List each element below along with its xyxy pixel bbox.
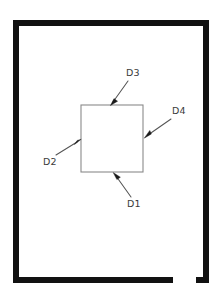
frame-top-edge: [13, 20, 209, 26]
outer-border-frame: [13, 20, 209, 283]
leader-line-d3: [113, 81, 128, 102]
leader-line-d2: [56, 142, 77, 155]
center-square: [81, 105, 143, 172]
dimension-label-d2: D2: [43, 156, 57, 167]
frame-right-edge: [203, 20, 209, 283]
frame-bottom-edge-right-segment: [196, 277, 209, 283]
technical-drawing-canvas: D1 D2 D3 D4: [0, 0, 221, 300]
arrow-head-d4: [144, 130, 151, 138]
arrow-head-d2: [74, 139, 81, 144]
drawing-svg: D1 D2 D3 D4: [0, 0, 221, 300]
leader-line-d4: [148, 119, 171, 135]
frame-left-edge: [13, 20, 19, 283]
leader-line-d1: [116, 176, 131, 197]
dimension-label-d1: D1: [127, 198, 141, 209]
dimension-label-d4: D4: [172, 105, 186, 116]
dimension-leader-d2: D2: [43, 139, 81, 167]
frame-bottom-edge-left-segment: [13, 277, 173, 283]
dimension-leader-d1: D1: [113, 173, 141, 209]
dimension-leader-d4: D4: [144, 105, 186, 138]
dimension-label-d3: D3: [126, 67, 140, 78]
arrow-head-d1: [113, 173, 120, 180]
dimension-leader-d3: D3: [110, 67, 140, 106]
